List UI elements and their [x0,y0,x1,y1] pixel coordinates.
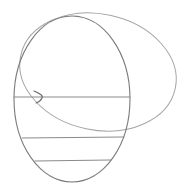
horizontal-line-bottom [35,160,111,161]
sketch-canvas [0,0,193,186]
left-ellipse [14,16,130,182]
horizontal-line-middle [22,137,124,138]
right-ellipse [9,0,188,145]
